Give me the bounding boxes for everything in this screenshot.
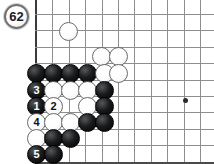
board-horizontal-line: [35, 47, 214, 48]
board-horizontal-line: [35, 145, 214, 146]
stone-black: [95, 113, 114, 132]
board-horizontal-line: [35, 96, 214, 97]
go-diagram-root: 31245 62: [0, 0, 214, 164]
board-vertical-line: [151, 0, 152, 162]
move-number-marker-62: 62: [4, 4, 29, 29]
board-bottom-edge-line: [35, 162, 214, 164]
board-vertical-line: [134, 0, 135, 162]
board-vertical-line: [167, 0, 168, 162]
star-point: [183, 98, 188, 103]
board-vertical-line: [184, 0, 185, 162]
move-number-label: 62: [6, 6, 27, 27]
stone-move-number: 5: [28, 146, 45, 163]
board-vertical-line: [200, 0, 201, 162]
stone-black: [61, 129, 80, 148]
stone-white: [109, 64, 128, 83]
board-horizontal-line: [35, 129, 214, 130]
stone-white: [59, 22, 78, 41]
board-horizontal-line: [35, 14, 214, 15]
stone-black: [44, 145, 63, 164]
